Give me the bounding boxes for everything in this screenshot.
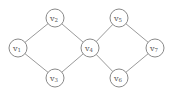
node-v1: v1 — [9, 39, 27, 57]
graph-diagram: v1v2v3v4v5v6v7 — [0, 0, 181, 96]
node-v2: v2 — [46, 9, 64, 27]
node-v7: v7 — [146, 39, 164, 57]
node-v4: v4 — [81, 39, 99, 57]
graph-svg: v1v2v3v4v5v6v7 — [0, 0, 181, 96]
node-v5: v5 — [110, 9, 128, 27]
node-v6: v6 — [110, 69, 128, 87]
node-v3: v3 — [46, 69, 64, 87]
nodes: v1v2v3v4v5v6v7 — [9, 9, 164, 87]
